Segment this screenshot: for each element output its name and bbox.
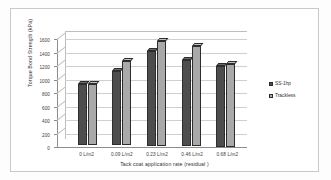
x-axis-line: [57, 147, 247, 148]
y-tick-label: 1200: [39, 65, 50, 70]
legend-item-trackless[interactable]: Trackless: [269, 93, 324, 98]
x-tick-label: 0.46 L/m2: [181, 152, 203, 157]
y-tick: 1600: [54, 39, 57, 40]
y-tick-label: 1600: [39, 38, 50, 43]
bar-trackless-1: [122, 61, 131, 145]
legend-swatch-icon: [269, 82, 273, 86]
bar-face: [192, 46, 201, 146]
bar-trackless-3: [192, 46, 201, 146]
y-tick: 200: [54, 134, 57, 135]
gridline: [65, 39, 247, 40]
y-tick: 600: [54, 107, 57, 108]
y-tick: 400: [54, 120, 57, 121]
plot-area: 02004006008001000120014001600 0 L/m20.09…: [57, 31, 247, 147]
y-tick-label: 200: [42, 132, 50, 137]
y-tick: 1000: [54, 80, 57, 81]
bar-trackless-2: [157, 41, 166, 146]
y-tick: 1400: [54, 53, 57, 54]
y-axis-title: Torque Bond Strength (kPa): [27, 19, 33, 87]
legend-swatch-icon: [269, 94, 273, 98]
y-tick-label: 600: [42, 105, 50, 110]
x-axis-title: Tack coat application rate (residual ): [11, 161, 318, 167]
bar-face: [182, 60, 191, 146]
bar-ss-1hp-1: [112, 71, 121, 145]
bar-face: [112, 71, 121, 145]
bar-trackless-0: [88, 84, 97, 145]
chart-page: Torque Bond Strength (kPa) 0200400600800…: [0, 0, 331, 180]
bar-ss-1hp-2: [147, 51, 156, 146]
y-tick-label: 0: [47, 146, 50, 151]
y-tick: 1200: [54, 66, 57, 67]
bar-ss-1hp-0: [78, 84, 87, 145]
y-tick-label: 1000: [39, 78, 50, 83]
legend-item-ss-1hp[interactable]: SS-1hp: [269, 81, 324, 86]
bar-ss-1hp-3: [182, 60, 191, 146]
y-tick-label: 1400: [39, 51, 50, 56]
x-tick-label: 0.23 L/m2: [146, 152, 168, 157]
y-tick: 0: [54, 147, 57, 148]
bar-face: [216, 66, 225, 146]
y-tick: 800: [54, 93, 57, 94]
bar-face: [157, 41, 166, 146]
x-tick-label: 0.09 L/m2: [111, 152, 133, 157]
y-tick-label: 400: [42, 119, 50, 124]
bar-trackless-4: [226, 64, 235, 147]
figure-frame: Torque Bond Strength (kPa) 0200400600800…: [10, 8, 319, 172]
bar-face: [122, 61, 131, 145]
x-tick-label: 0.68 L/m2: [217, 152, 239, 157]
y-tick-label: 800: [42, 92, 50, 97]
bar-face: [88, 84, 97, 145]
chart-legend: SS-1hpTrackless: [269, 81, 324, 105]
legend-label: Trackless: [275, 93, 295, 98]
bar-face: [147, 51, 156, 146]
bar-ss-1hp-4: [216, 66, 225, 146]
bar-face: [226, 64, 235, 147]
legend-label: SS-1hp: [275, 81, 291, 86]
x-tick-label: 0 L/m2: [79, 152, 94, 157]
bar-face: [78, 84, 87, 145]
